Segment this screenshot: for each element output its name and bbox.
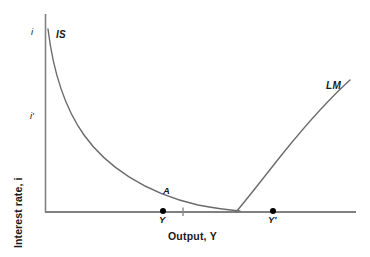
is-curve-label: IS — [56, 30, 66, 40]
equilibrium-point-label: A — [163, 186, 170, 196]
is-lm-chart-figure: Interest rate, i Output, Y i i' IS LM A … — [0, 0, 370, 257]
y-axis-title: Interest rate, i — [13, 118, 24, 248]
output-prime-value-label: Y' — [268, 215, 277, 225]
output-value-label: Y — [159, 215, 165, 225]
is-curve — [48, 29, 240, 211]
lm-curve-label: LM — [326, 81, 341, 91]
lm-curve — [236, 80, 350, 212]
x-axis-title: Output, Y — [168, 231, 217, 242]
y-axis-tick-label-i: i — [31, 27, 33, 37]
y-axis-tick-label-i-prime: i' — [30, 111, 34, 121]
